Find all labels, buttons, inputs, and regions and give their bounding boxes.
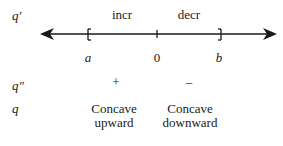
plus-sign: + xyxy=(112,74,119,90)
concave-downward-line1: Concave xyxy=(163,102,218,116)
concave-downward-line2: downward xyxy=(163,116,218,130)
point-a-label: a xyxy=(85,50,92,66)
concave-downward-label: Concave downward xyxy=(163,102,218,130)
minus-sign: – xyxy=(186,74,193,90)
concave-upward-line2: upward xyxy=(91,116,136,130)
concave-upward-line1: Concave xyxy=(91,102,136,116)
point-zero-label: 0 xyxy=(154,50,161,66)
number-line xyxy=(0,0,283,146)
concave-upward-label: Concave upward xyxy=(91,102,136,130)
point-b-label: b xyxy=(216,50,223,66)
